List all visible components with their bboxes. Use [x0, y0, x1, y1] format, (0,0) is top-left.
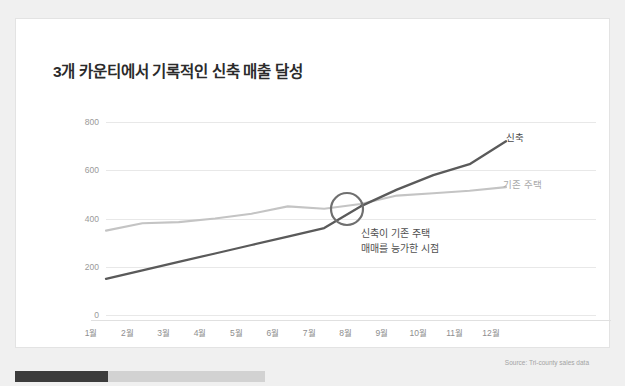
progress-bar[interactable] [15, 371, 265, 382]
x-axis-tick-label: 11월 [438, 326, 472, 338]
crossover-annotation: 신축이 기존 주택 매매를 능가한 시점 [361, 227, 439, 256]
screenshot-root: 3개 카운티에서 기록적인 신축 매출 달성 0200400600800 신축 … [0, 0, 625, 386]
chart-card: 3개 카운티에서 기록적인 신축 매출 달성 0200400600800 신축 … [15, 18, 610, 348]
annotation-line-1: 신축이 기존 주택 [361, 227, 439, 242]
series-line-new [106, 141, 506, 278]
series-label-existing: 기존 주택 [503, 177, 542, 191]
x-axis-tick-label: 12월 [474, 326, 508, 338]
x-axis-tick-label: 5월 [219, 326, 253, 338]
annotation-line-2: 매매를 능가한 시점 [361, 242, 439, 257]
x-axis-tick-label: 9월 [365, 326, 399, 338]
x-axis-tick-label: 6월 [256, 326, 290, 338]
progress-bar-fill [15, 371, 108, 382]
x-axis-tick-label: 8월 [329, 326, 363, 338]
x-axis-tick-label: 4월 [183, 326, 217, 338]
series-label-new: 신축 [506, 130, 524, 144]
x-axis-tick-label: 2월 [110, 326, 144, 338]
x-axis-tick-label: 7월 [292, 326, 326, 338]
x-axis-tick-label: 1월 [74, 326, 108, 338]
x-axis-tick-label: 3월 [147, 326, 181, 338]
x-axis-tick-label: 10월 [401, 326, 435, 338]
source-note: Source: Tri-county sales data [16, 359, 611, 366]
series-line-existing [106, 187, 506, 231]
